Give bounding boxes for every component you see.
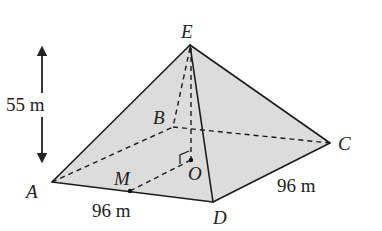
pyramid-diagram: E A B C D O M 55 m 96 m 96 m <box>0 0 382 231</box>
label-C: C <box>338 133 351 154</box>
point-O <box>189 158 193 162</box>
label-side-DC: 96 m <box>277 175 316 196</box>
label-O: O <box>188 163 202 184</box>
label-D: D <box>212 207 227 228</box>
label-height: 55 m <box>6 94 45 115</box>
label-E: E <box>180 21 193 42</box>
label-A: A <box>24 181 38 202</box>
label-B: B <box>153 107 165 128</box>
point-M <box>128 189 132 193</box>
label-M: M <box>113 168 131 189</box>
label-side-AD: 96 m <box>92 200 131 221</box>
